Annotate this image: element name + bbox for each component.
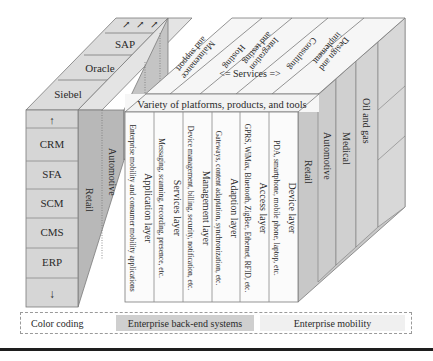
svg-text:Access layer: Access layer <box>258 183 269 234</box>
platforms-label: Variety of platforms, products, and tool… <box>137 99 306 110</box>
backend-top-item: Siebel <box>54 88 82 100</box>
svg-text:Gateways, content adaptation,: Gateways, content adaptation, synchroniz… <box>214 131 223 286</box>
backend-vertical-automotive: Automotive <box>107 148 118 196</box>
color-legend: Color coding Enterprise back-end systems… <box>20 312 412 334</box>
vertical-oil-and-gas: Oil and gas <box>361 98 372 144</box>
svg-text:Application layer: Application layer <box>143 173 154 243</box>
top-arrow-icon: ↗ <box>136 19 144 30</box>
backend-item-crm: CRM <box>40 138 65 150</box>
svg-text:Enterprise mobility and consum: Enterprise mobility and consumer mobilit… <box>128 124 137 291</box>
backend-top-item: Oracle <box>85 62 114 74</box>
top-arrow-icon: ↗ <box>150 19 158 30</box>
legend-backend-swatch: Enterprise back-end systems <box>116 315 254 331</box>
legend-mobility-swatch: Enterprise mobility <box>260 315 405 331</box>
vertical-medical: Medical <box>341 132 352 165</box>
backend-item-erp: ERP <box>42 256 62 268</box>
svg-text:Device management, billing, se: Device management, billing, security, no… <box>186 126 195 291</box>
mobility-architecture-diagram: ↗ ↗ ↗ SAP Oracle Siebel ↑ CRM SFA SCM CM… <box>0 0 433 361</box>
backend-item-cms: CMS <box>40 226 63 238</box>
vertical-automotive: Automotive <box>322 132 333 180</box>
backend-item-scm: SCM <box>40 197 63 209</box>
bottom-rule <box>0 348 433 351</box>
services-label: <= Services => <box>219 68 281 79</box>
backend-vertical-retail: Retail <box>84 188 95 212</box>
backend-top-item: SAP <box>115 38 135 50</box>
top-arrow-icon: ↗ <box>122 19 130 30</box>
svg-text:Management layer: Management layer <box>201 171 212 246</box>
svg-text:PDA, smartphone, mobile phone,: PDA, smartphone, mobile phone, laptop, e… <box>272 140 281 276</box>
svg-text:Device layer: Device layer <box>287 183 298 234</box>
legend-label: Color coding <box>21 318 116 329</box>
arrow-down-icon: ↓ <box>49 287 55 301</box>
backend-item-sfa: SFA <box>42 168 61 180</box>
svg-text:Services layer: Services layer <box>172 180 183 237</box>
svg-text:Messaging, scanning, recording: Messaging, scanning, recording, presence… <box>157 138 166 278</box>
arrow-up-icon: ↑ <box>49 114 55 126</box>
svg-text:Adaption layer: Adaption layer <box>229 178 240 238</box>
svg-text:GPRS, WiMax, Bluetooth, ZigBee: GPRS, WiMax, Bluetooth, ZigBee, Ethernet… <box>243 124 252 293</box>
vertical-retail: Retail <box>303 160 314 184</box>
